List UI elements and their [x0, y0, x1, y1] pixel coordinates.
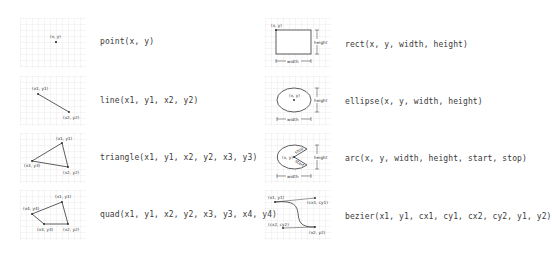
- quad-diagram: (x1, y1) (x2, y2) (x3, y3) (x4, y4): [20, 190, 86, 240]
- line-signature: line(x1, y1, x2, y2): [100, 96, 198, 105]
- triangle-annotation-1: (x1, y1): [56, 136, 73, 141]
- triangle-annotation-3: (x3, y3): [24, 163, 41, 168]
- rect-annotation-height: height: [314, 40, 328, 45]
- triangle-diagram: (x1, y1) (x2, y2) (x3, y3): [20, 133, 86, 183]
- quad-annotation-2: (x2, y2): [63, 227, 80, 232]
- bezier-annotation-end: (x2, y2): [309, 230, 326, 235]
- ellipse-signature: ellipse(x, y, width, height): [345, 97, 483, 106]
- bezier-signature: bezier(x1, y1, cx1, cy1, cx2, cy2, y1, y…: [345, 212, 552, 221]
- point-signature: point(x, y): [100, 37, 154, 46]
- quad-signature: quad(x1, y1, x2, y2, x3, y3, x4, y4): [100, 210, 277, 219]
- arc-signature: arc(x, y, width, height, start, stop): [345, 154, 527, 163]
- rect-diagram: (x, y) height width: [265, 18, 331, 68]
- bezier-annotation-control1: (cx1, cy1): [307, 200, 328, 205]
- arc-annotation-width: width: [287, 174, 299, 179]
- triangle-signature: triangle(x1, y1, x2, y2, x3, y3): [100, 153, 257, 162]
- arc-annotation-height: height: [314, 155, 328, 160]
- line-diagram: (x1, y1) (x2, y2): [20, 76, 86, 126]
- ellipse-annotation-width: width: [287, 117, 299, 122]
- point-diagram: (x, y): [20, 18, 86, 68]
- quad-annotation-3: (x3, y3): [37, 227, 54, 232]
- ellipse-annotation-height: height: [314, 98, 328, 103]
- line-annotation-end: (x2, y2): [63, 115, 80, 120]
- ellipse-diagram: (x, y) height width: [265, 76, 331, 126]
- line-annotation-start: (x1, y1): [32, 86, 49, 91]
- triangle-annotation-2: (x2, y2): [63, 170, 80, 175]
- quad-annotation-4: (x4, y4): [23, 206, 40, 211]
- arc-diagram: (x, y) stop start height width: [265, 133, 331, 183]
- bezier-diagram: (x1, y1) (cx1, cy1) (cx2, cy2) (x2, y2): [265, 190, 331, 240]
- rect-annotation-origin: (x, y): [271, 23, 282, 28]
- rect-signature: rect(x, y, width, height): [345, 40, 468, 49]
- quad-annotation-1: (x1, y1): [55, 194, 72, 199]
- point-annotation: (x, y): [50, 34, 61, 39]
- bezier-annotation-control2: (cx2, cy2): [268, 222, 289, 227]
- ellipse-annotation-center: (x, y): [289, 93, 300, 98]
- arc-annotation-center: (x, y): [282, 155, 293, 160]
- rect-annotation-width: width: [287, 59, 299, 64]
- bezier-annotation-start: (x1, y1): [268, 195, 285, 200]
